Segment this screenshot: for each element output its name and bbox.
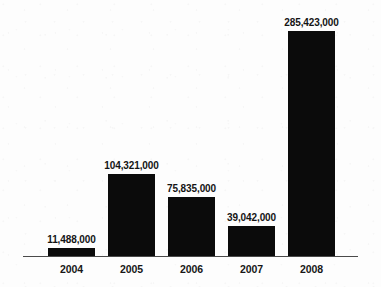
bar-2007: [228, 226, 275, 257]
plot-area: 11,488,000 104,321,000 75,835,000 39,042…: [0, 0, 381, 287]
bar-2008: [288, 31, 335, 257]
x-axis-tick-label-2005: 2005: [108, 263, 155, 275]
bar-value-label-2005: 104,321,000: [104, 160, 159, 171]
x-axis-tick-label-2006: 2006: [168, 263, 215, 275]
bar-2005: [108, 174, 155, 257]
bar-chart: 11,488,000 104,321,000 75,835,000 39,042…: [0, 0, 381, 287]
bar-value-label-2007: 39,042,000: [227, 212, 276, 223]
x-axis-tick-label-2007: 2007: [228, 263, 275, 275]
bar-value-label-2008: 285,423,000: [284, 17, 339, 28]
x-axis-tick-label-2004: 2004: [48, 263, 95, 275]
bar-value-label-2006: 75,835,000: [167, 183, 216, 194]
x-axis-tick-label-2008: 2008: [288, 263, 335, 275]
x-axis-line: [23, 256, 358, 257]
bar-2006: [168, 197, 215, 257]
bar-value-label-2004: 11,488,000: [47, 234, 96, 245]
